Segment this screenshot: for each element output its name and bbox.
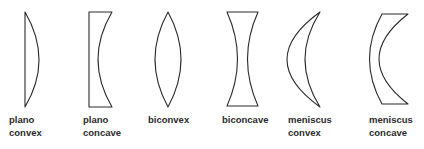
label-meniscus-concave: meniscus concave <box>369 113 413 139</box>
label-line: meniscus <box>288 113 332 126</box>
label-biconvex: biconvex <box>148 113 189 126</box>
label-plano-convex: plano convex <box>9 113 42 139</box>
label-biconcave: biconcave <box>222 113 268 126</box>
label-line: biconvex <box>148 113 189 126</box>
label-plano-concave: plano concave <box>83 113 121 139</box>
label-line: plano <box>9 113 42 126</box>
label-line: concave <box>83 126 121 139</box>
meniscus-concave-lens-shape <box>370 14 409 104</box>
label-line: concave <box>369 126 413 139</box>
biconvex-lens-shape <box>155 12 181 107</box>
label-line: plano <box>83 113 121 126</box>
meniscus-convex-lens-shape <box>287 12 320 107</box>
lens-types-diagram <box>0 0 424 149</box>
plano-concave-lens-shape <box>89 12 112 107</box>
label-line: meniscus <box>369 113 413 126</box>
label-line: biconcave <box>222 113 268 126</box>
plano-convex-lens-shape <box>25 12 39 107</box>
label-line: convex <box>9 126 42 139</box>
label-meniscus-convex: meniscus convex <box>288 113 332 139</box>
biconcave-lens-shape <box>227 12 258 106</box>
label-line: convex <box>288 126 332 139</box>
